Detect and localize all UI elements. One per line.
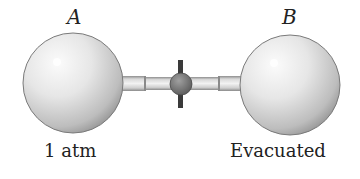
flask-b-label: B bbox=[282, 5, 297, 29]
valve[interactable] bbox=[170, 60, 192, 108]
flask-a bbox=[23, 33, 123, 133]
highlight bbox=[53, 58, 61, 66]
flask-b-caption: Evacuated bbox=[230, 140, 326, 161]
tube-left bbox=[118, 76, 172, 91]
flask-a-caption: 1 atm bbox=[44, 140, 96, 161]
tube-right bbox=[190, 76, 244, 91]
flask-a-label: A bbox=[67, 5, 81, 29]
valve-body bbox=[170, 73, 192, 95]
flask-b bbox=[240, 35, 340, 135]
gas-flask-diagram: A 1 atm B Evacuated bbox=[0, 0, 360, 179]
highlight bbox=[270, 59, 278, 67]
